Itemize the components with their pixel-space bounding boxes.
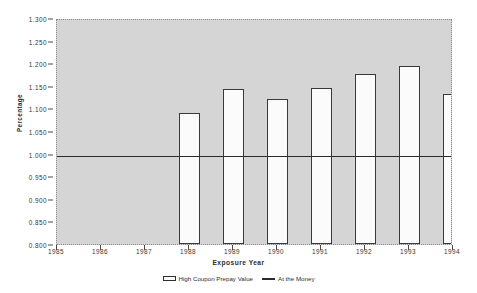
y-axis-tick-mark xyxy=(48,64,53,65)
x-axis-tick-mark xyxy=(56,245,57,250)
y-axis-tick-mark xyxy=(48,222,53,223)
x-axis-tick-mark xyxy=(452,245,453,250)
y-axis-tick-label: 0.900 xyxy=(29,196,47,203)
bar xyxy=(311,88,332,244)
line-swatch-icon xyxy=(262,278,275,280)
y-axis-tick-mark xyxy=(48,109,53,110)
x-axis-tick-mark xyxy=(320,245,321,250)
y-axis-tick-label: 0.800 xyxy=(29,242,47,249)
x-axis-tick-mark xyxy=(364,245,365,250)
bar xyxy=(355,74,376,244)
bar xyxy=(179,113,200,244)
y-axis-tick-mark xyxy=(48,177,53,178)
x-axis-tick-mark xyxy=(276,245,277,250)
y-axis-tick-label: 1.050 xyxy=(29,129,47,136)
x-axis-title: Exposure Year xyxy=(0,259,477,266)
x-axis-tick-mark xyxy=(232,245,233,250)
at-the-money-reference-line xyxy=(57,156,451,157)
chart-container: Percentage 1.3001.2501.2001.1501.1001.05… xyxy=(0,0,477,293)
legend-label: At the Money xyxy=(278,275,314,282)
y-axis-tick-mark xyxy=(48,86,53,87)
x-axis-tick-mark xyxy=(408,245,409,250)
y-axis-tick-label: 1.100 xyxy=(29,106,47,113)
y-axis-tick-mark xyxy=(48,19,53,20)
y-axis-tick-label: 1.200 xyxy=(29,61,47,68)
plot-area xyxy=(56,19,452,245)
y-axis-tick-mark xyxy=(48,132,53,133)
bar xyxy=(267,99,288,244)
x-axis-tick-mark xyxy=(144,245,145,250)
y-axis-tick-label: 0.850 xyxy=(29,219,47,226)
y-axis-tick-label: 1.250 xyxy=(29,38,47,45)
x-axis-tick-mark xyxy=(100,245,101,250)
y-axis-tick-mark xyxy=(48,199,53,200)
y-axis-tick-label: 1.150 xyxy=(29,83,47,90)
y-axis-tick-mark xyxy=(48,245,53,246)
bar xyxy=(443,94,452,244)
y-axis-tick-mark xyxy=(48,41,53,42)
y-axis-tick-label: 1.000 xyxy=(29,151,47,158)
chart-legend: High Coupon Prepay Value At the Money xyxy=(0,275,477,282)
x-axis-tick-mark xyxy=(188,245,189,250)
legend-label: High Coupon Prepay Value xyxy=(179,275,254,282)
bar-swatch-icon xyxy=(163,276,176,281)
legend-item-at-the-money[interactable]: At the Money xyxy=(262,275,314,282)
y-axis-tick-label: 0.950 xyxy=(29,174,47,181)
bar xyxy=(223,89,244,244)
y-axis-tick-mark xyxy=(48,154,53,155)
y-axis-tick-label: 1.300 xyxy=(29,16,47,23)
legend-item-high-coupon-prepay-value[interactable]: High Coupon Prepay Value xyxy=(163,275,254,282)
plot-inner xyxy=(57,20,451,244)
